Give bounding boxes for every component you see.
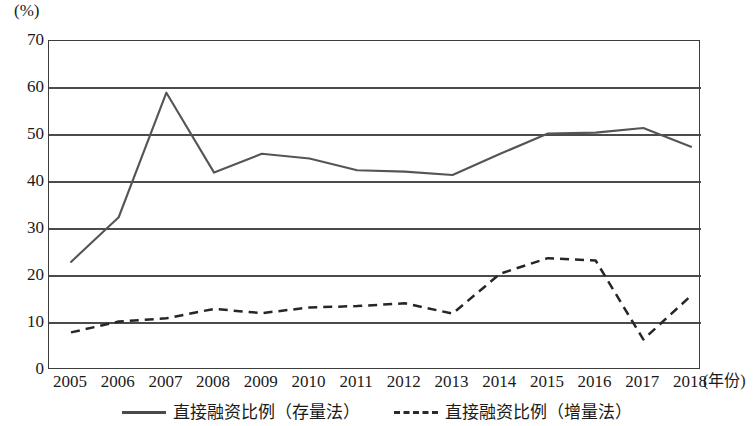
x-tick-label-2008: 2008 [196, 373, 230, 390]
x-tick-label-2005: 2005 [53, 373, 87, 390]
y-tick-label-10: 10 [2, 313, 44, 330]
y-axis-tick-labels: 010203040506070 [0, 0, 44, 426]
x-tick-label-2018: 2018 [673, 373, 707, 390]
y-tick-label-60: 60 [2, 78, 44, 95]
y-tick-label-30: 30 [2, 219, 44, 236]
plot-area [48, 40, 700, 369]
x-axis-tick-labels: (年份) 20052006200720082009201020112012201… [0, 373, 753, 397]
data-series [71, 93, 691, 340]
plot-svg [49, 41, 701, 370]
chart-figure: (%) 010203040506070 (年份) 200520062007200… [0, 0, 753, 426]
gridlines [49, 88, 701, 323]
y-tick-label-70: 70 [2, 31, 44, 48]
x-tick-label-2016: 2016 [578, 373, 612, 390]
x-tick-label-2007: 2007 [148, 373, 182, 390]
legend-entry-1[interactable]: 直接融资比例（存量法） [122, 404, 360, 421]
dashed-line-icon [394, 411, 438, 414]
x-axis-title: (年份) [703, 373, 746, 389]
y-tick-label-20: 20 [2, 266, 44, 283]
y-tick-label-50: 50 [2, 125, 44, 142]
x-tick-label-2015: 2015 [530, 373, 564, 390]
x-tick-label-2012: 2012 [387, 373, 421, 390]
y-tick-label-40: 40 [2, 172, 44, 189]
x-tick-label-2011: 2011 [339, 373, 372, 390]
legend-entry-2[interactable]: 直接融资比例（增量法） [394, 404, 632, 421]
x-tick-label-2013: 2013 [435, 373, 469, 390]
series-line-1 [71, 93, 691, 262]
x-tick-label-2006: 2006 [101, 373, 135, 390]
x-tick-label-2014: 2014 [482, 373, 516, 390]
x-tick-label-2017: 2017 [625, 373, 659, 390]
solid-line-icon [122, 411, 166, 414]
legend-label: 直接融资比例（增量法） [445, 404, 632, 421]
legend-label: 直接融资比例（存量法） [173, 404, 360, 421]
chart-legend: 直接融资比例（存量法）直接融资比例（增量法） [0, 399, 753, 426]
series-line-2 [71, 258, 691, 339]
x-tick-label-2009: 2009 [244, 373, 278, 390]
x-tick-label-2010: 2010 [291, 373, 325, 390]
